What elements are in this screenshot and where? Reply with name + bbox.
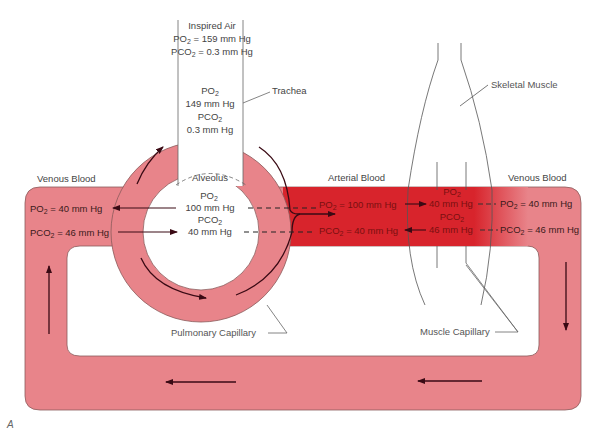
venous-blood-right-label: Venous Blood	[508, 172, 567, 183]
alveolus-gas-block: Alveolus PO2 100 mm Hg PCO2 40 mm Hg	[185, 172, 234, 237]
venous-left-po2: PO2 = 40 mm Hg	[30, 203, 102, 215]
pulmonary-capillary-label: Pulmonary Capillary	[171, 327, 256, 338]
svg-text:40 mm Hg: 40 mm Hg	[429, 198, 473, 209]
alveolus-label: Alveolus	[192, 172, 228, 183]
svg-text:40 mm Hg: 40 mm Hg	[188, 226, 232, 237]
gas-exchange-diagram: Inspired Air PO2 = 159 mm Hg PCO2 = 0.3 …	[0, 0, 609, 435]
pulmonary-capillary-ring	[111, 20, 335, 322]
venous-right-po2: PO2 = 40 mm Hg	[500, 198, 572, 210]
inspired-air-pco2: PCO2 = 0.3 mm Hg	[171, 46, 253, 58]
skeletal-muscle	[407, 43, 492, 305]
svg-text:100 mm Hg: 100 mm Hg	[185, 202, 234, 213]
muscle-capillary-label: Muscle Capillary	[420, 326, 490, 337]
muscle-capillary-leader-b	[466, 265, 518, 332]
trachea-leader	[243, 92, 270, 103]
pulmonary-capillary-leader	[267, 305, 287, 333]
venous-left-pco2: PCO2 = 46 mm Hg	[30, 227, 109, 239]
inspired-air-title: Inspired Air	[188, 20, 236, 31]
circulation-loop	[25, 187, 581, 410]
arterial-blood-label: Arterial Blood	[328, 172, 385, 183]
arterial-pco2: PCO2 = 40 mm Hg	[319, 225, 398, 237]
svg-text:0.3 mm Hg: 0.3 mm Hg	[187, 124, 233, 135]
svg-text:46 mm Hg: 46 mm Hg	[429, 224, 473, 235]
trachea-label: Trachea	[272, 85, 307, 96]
skeletal-muscle-label: Skeletal Muscle	[491, 79, 558, 90]
inspired-air-po2: PO2 = 159 mm Hg	[173, 33, 251, 45]
venous-right-pco2: PCO2 = 46 mm Hg	[500, 224, 579, 236]
svg-text:149 mm Hg: 149 mm Hg	[185, 98, 234, 109]
arterial-po2: PO2 = 100 mm Hg	[319, 199, 397, 211]
venous-blood-left-label: Venous Blood	[37, 173, 96, 184]
figure-label: A	[6, 419, 14, 430]
